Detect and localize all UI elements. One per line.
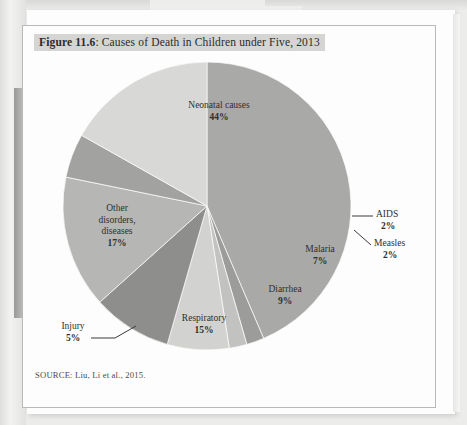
slice-label-neonatal-text: Neonatal causes bbox=[188, 100, 249, 110]
slice-label-measles: Measles 2% bbox=[374, 238, 434, 261]
slice-label-measles-text: Measles bbox=[374, 238, 405, 248]
slice-label-other-disorders: Other disorders, diseases 17% bbox=[79, 203, 155, 249]
slice-label-aids-pct: 2% bbox=[381, 221, 432, 233]
slice-label-injury-pct: 5% bbox=[53, 333, 93, 345]
slice-label-neonatal-pct: 44% bbox=[164, 112, 274, 124]
figure-container: Figure 11.6: Causes of Death in Children… bbox=[22, 25, 436, 408]
slice-label-aids-text: AIDS bbox=[376, 209, 398, 219]
slice-label-respiratory-pct: 15% bbox=[166, 325, 242, 337]
slice-label-aids: AIDS 2% bbox=[376, 209, 432, 232]
slice-label-other-line3: diseases bbox=[101, 226, 132, 236]
slice-label-diarrhea: Diarrhea 9% bbox=[253, 284, 317, 307]
slice-label-neonatal: Neonatal causes 44% bbox=[164, 100, 274, 123]
slice-label-respiratory: Respiratory 15% bbox=[166, 313, 242, 336]
slice-label-malaria: Malaria 7% bbox=[289, 244, 351, 267]
slice-label-malaria-pct: 7% bbox=[289, 256, 351, 268]
slice-label-respiratory-text: Respiratory bbox=[182, 313, 226, 323]
pie-chart: Neonatal causes 44% AIDS 2% Measles 2% M… bbox=[23, 26, 435, 407]
slice-label-injury: Injury 5% bbox=[53, 321, 93, 344]
slice-label-other-line1: Other bbox=[106, 203, 128, 213]
slice-label-other-line2: disorders, bbox=[98, 215, 135, 225]
slice-label-diarrhea-text: Diarrhea bbox=[268, 284, 301, 294]
source-note: SOURCE: Liu, Li et al., 2015. bbox=[35, 370, 146, 380]
slice-label-measles-pct: 2% bbox=[383, 250, 434, 262]
slice-label-other-pct: 17% bbox=[79, 238, 155, 250]
slice-label-injury-text: Injury bbox=[61, 321, 84, 331]
slice-label-diarrhea-pct: 9% bbox=[253, 296, 317, 308]
page-right-edge bbox=[453, 14, 460, 412]
slice-label-malaria-text: Malaria bbox=[305, 244, 335, 254]
